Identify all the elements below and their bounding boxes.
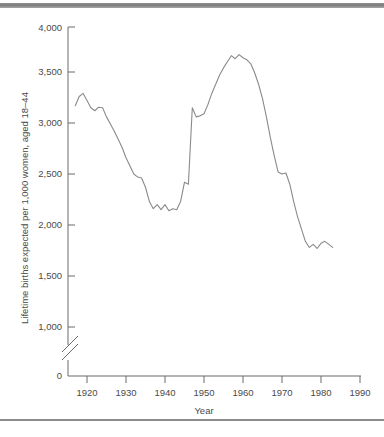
x-tick-label-1970: 1970 — [271, 387, 292, 398]
y-tick-label-0: 0 — [57, 370, 62, 381]
births-expected-series-line — [75, 55, 332, 249]
axis-break-slash-lower — [62, 344, 78, 360]
x-tick-label-1980: 1980 — [310, 387, 331, 398]
y-tick-label-3000: 3,000 — [38, 117, 62, 128]
y-axis-title: Lifetime births expected per 1,000 women… — [19, 92, 30, 324]
x-tick-label-1920: 1920 — [76, 387, 97, 398]
y-tick-label-3500: 3,500 — [38, 66, 62, 77]
figure-page: Lifetime births expected per 1,000 women… — [0, 0, 384, 437]
y-tick-label-1000: 1,000 — [38, 321, 62, 332]
x-tick-label-1990: 1990 — [349, 387, 370, 398]
y-tick-label-1500: 1,500 — [38, 270, 62, 281]
chart-figure: Lifetime births expected per 1,000 women… — [0, 8, 384, 418]
y-tick-label-2000: 2,000 — [38, 219, 62, 230]
x-tick-label-1960: 1960 — [232, 387, 253, 398]
y-tick-label-4000: 4,000 — [38, 22, 62, 33]
x-tick-label-1940: 1940 — [154, 387, 175, 398]
x-axis-title: Year — [194, 405, 213, 416]
axis-break-slash-upper — [62, 336, 78, 352]
y-tick-label-2500: 2,500 — [38, 168, 62, 179]
x-tick-label-1950: 1950 — [193, 387, 214, 398]
bottom-divider-rule — [0, 419, 384, 421]
x-tick-label-1930: 1930 — [115, 387, 136, 398]
line-chart-svg: Lifetime births expected per 1,000 women… — [0, 8, 384, 418]
